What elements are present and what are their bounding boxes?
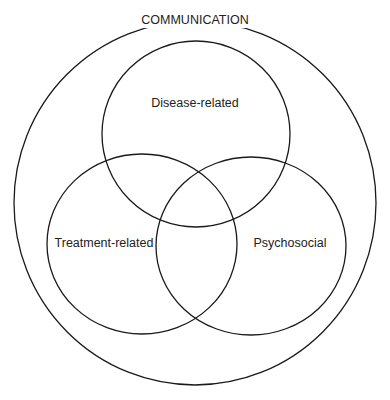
label-psychosocial: Psychosocial (254, 236, 327, 250)
label-treatment-related: Treatment-related (55, 236, 154, 250)
outer-circle-communication (14, 21, 376, 385)
venn-diagram: COMMUNICATION Disease-related Treatment-… (0, 0, 390, 400)
circle-disease-related (102, 41, 290, 227)
outer-label-communication: COMMUNICATION (141, 13, 248, 27)
label-disease-related: Disease-related (151, 96, 239, 110)
